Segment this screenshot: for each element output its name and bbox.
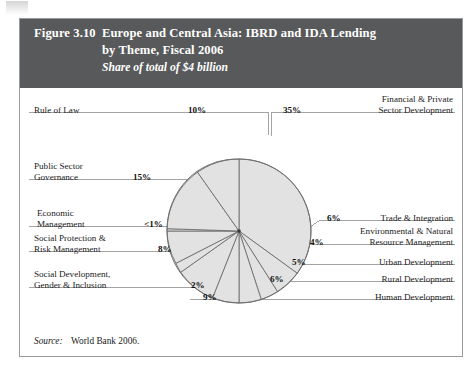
label-public-sector-governance-line1: Public Sector — [34, 161, 83, 172]
source-label: Source: — [34, 336, 63, 346]
label-social-development-line1: Social Development, — [34, 269, 110, 280]
label-social-development-line2: Gender & Inclusion — [34, 280, 106, 291]
label-urban-development: Urban Development — [303, 257, 453, 268]
pct-trade-integration: 6% — [327, 213, 341, 224]
label-rule-of-law: Rule of Law — [34, 105, 79, 116]
pct-social-development: 2% — [191, 280, 205, 291]
label-social-protection-line1: Social Protection & — [34, 233, 106, 244]
label-rural-development: Rural Development — [303, 274, 453, 285]
figure-title-row: Figure 3.10Europe and Central Asia: IBRD… — [34, 25, 454, 42]
label-environmental-line1: Environmental & Natural — [268, 226, 453, 237]
label-human-development: Human Development — [303, 292, 453, 303]
label-public-sector-governance-line2: Governance — [34, 172, 78, 183]
pct-environmental: 4% — [310, 237, 324, 248]
source-value: World Bank 2006. — [71, 336, 139, 346]
pct-urban-development: 5% — [292, 257, 306, 268]
pct-financial-private: 35% — [283, 105, 301, 116]
label-social-protection-line2: Risk Management — [34, 244, 100, 255]
scan-artifact — [6, 1, 28, 14]
label-economic-management-line1: Economic — [37, 208, 74, 219]
label-environmental-line2: Resource Management — [268, 237, 453, 248]
pct-public-sector-governance: 15% — [133, 172, 151, 183]
label-financial-private-line1: Financial & Private — [273, 94, 453, 105]
pct-human-development: 9% — [203, 292, 217, 303]
figure-header-bar: Figure 3.10Europe and Central Asia: IBRD… — [20, 19, 462, 88]
label-economic-management-line2: Management — [37, 219, 84, 230]
source-note: Source: World Bank 2006. — [34, 336, 139, 346]
pct-social-protection: 8% — [158, 244, 172, 255]
figure-subtitle: Share of total of $4 billion — [34, 59, 454, 76]
chart-plot-area: Rule of Law 10% Public Sector Governance… — [20, 88, 462, 358]
figure-header-text: Figure 3.10Europe and Central Asia: IBRD… — [34, 25, 454, 76]
pct-rural-development: 6% — [270, 274, 284, 285]
figure-frame: Figure 3.10Europe and Central Asia: IBRD… — [19, 18, 463, 357]
label-trade-integration: Trade & Integration — [303, 213, 453, 224]
figure-title-line-1: Europe and Central Asia: IBRD and IDA Le… — [102, 25, 376, 42]
figure-title-line-2: by Theme, Fiscal 2006 — [34, 42, 454, 59]
figure-number: Figure 3.10 — [34, 25, 102, 42]
pct-rule-of-law: 10% — [188, 105, 206, 116]
pct-economic-management: <1% — [144, 219, 163, 230]
pie-center-dot — [237, 229, 241, 233]
